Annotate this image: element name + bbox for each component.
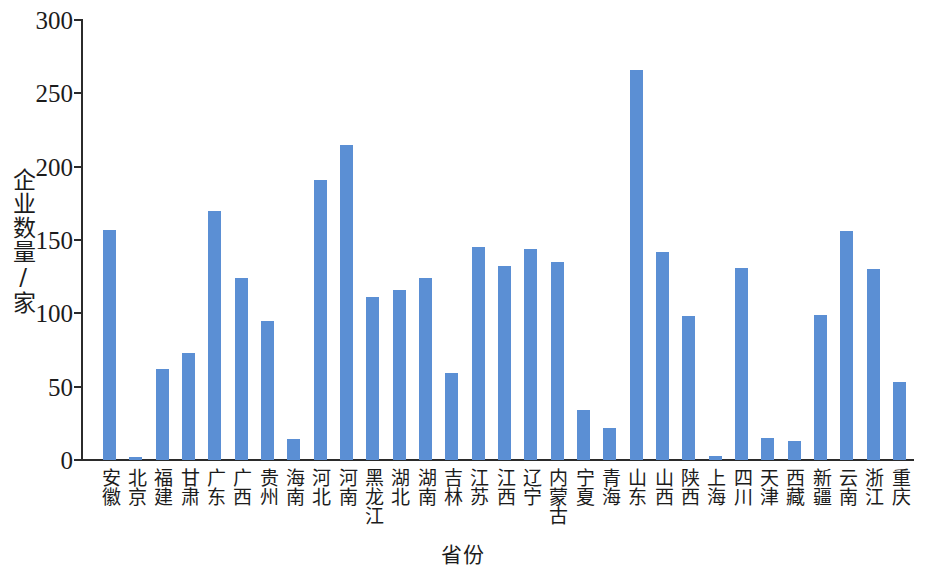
x-tick-label: 山东 (627, 468, 646, 506)
y-tick-mark (74, 386, 82, 388)
bar (103, 230, 116, 460)
x-tick-label: 四川 (732, 468, 751, 506)
x-tick-label: 宁夏 (574, 468, 593, 506)
x-tick-label: 内蒙古 (548, 468, 567, 525)
y-tick-mark (74, 239, 82, 241)
x-tick-label: 安徽 (100, 468, 119, 506)
bar (682, 316, 695, 460)
x-tick-label: 湖南 (416, 468, 435, 506)
bar-slot (254, 20, 280, 460)
bar-slot (123, 20, 149, 460)
x-tick-label: 新疆 (811, 468, 830, 506)
bar-slot (702, 20, 728, 460)
bar (524, 249, 537, 460)
bar (551, 262, 564, 460)
bar-slot (96, 20, 122, 460)
x-tick-label: 湖北 (390, 468, 409, 506)
x-tick-label: 云南 (837, 468, 856, 506)
bar-slot (307, 20, 333, 460)
bar (840, 231, 853, 460)
bar-slot (781, 20, 807, 460)
bar-slot (676, 20, 702, 460)
x-tick-label: 江苏 (469, 468, 488, 506)
x-tick-label: 北京 (126, 468, 145, 506)
bar (814, 315, 827, 460)
y-tick-mark (74, 312, 82, 314)
x-tick-label: 重庆 (890, 468, 909, 506)
bar-slot (860, 20, 886, 460)
bar-slot (149, 20, 175, 460)
y-tick-mark (74, 19, 82, 21)
x-tick-label: 黑龙江 (363, 468, 382, 525)
y-tick-label: 300 (36, 8, 74, 33)
x-tick-label: 陕西 (679, 468, 698, 506)
y-tick-label: 50 (48, 374, 73, 399)
bar (630, 70, 643, 460)
x-tick-label: 吉林 (442, 468, 461, 506)
bar-slot (465, 20, 491, 460)
bar-slot (728, 20, 754, 460)
bar-slot (491, 20, 517, 460)
x-tick-label: 甘肃 (179, 468, 198, 506)
bar-slot (570, 20, 596, 460)
bar-slot (755, 20, 781, 460)
x-tick-label: 广东 (205, 468, 224, 506)
x-tick-label: 广西 (232, 468, 251, 506)
x-tick-label: 西藏 (785, 468, 804, 506)
bar-slot (807, 20, 833, 460)
x-tick-label: 辽宁 (521, 468, 540, 506)
bar-slot (834, 20, 860, 460)
bar (208, 211, 221, 460)
bar-slot (333, 20, 359, 460)
y-tick-label: 150 (36, 228, 74, 253)
plot-area: 050100150200250300 (82, 20, 914, 460)
bar (709, 456, 722, 460)
bar (182, 353, 195, 460)
bar (603, 428, 616, 460)
bar (314, 180, 327, 460)
y-tick-label: 100 (36, 301, 74, 326)
bar-slot (228, 20, 254, 460)
y-tick-label: 0 (61, 448, 74, 473)
bar (472, 247, 485, 460)
x-tick-label: 浙江 (864, 468, 883, 506)
bar (261, 321, 274, 460)
bar-slot (281, 20, 307, 460)
bar (735, 268, 748, 460)
x-tick-label: 福建 (153, 468, 172, 506)
bar (761, 438, 774, 460)
y-tick-mark (74, 459, 82, 461)
x-tick-label: 江西 (495, 468, 514, 506)
bar (366, 297, 379, 460)
bar (419, 278, 432, 460)
x-tick-label: 青海 (600, 468, 619, 506)
y-tick-mark (74, 92, 82, 94)
bar (893, 382, 906, 460)
bar (788, 441, 801, 460)
bar-slot (386, 20, 412, 460)
bar (577, 410, 590, 460)
x-tick-label: 河北 (311, 468, 330, 506)
bar-slot (360, 20, 386, 460)
x-tick-label: 贵州 (258, 468, 277, 506)
bar (656, 252, 669, 460)
x-tick-label: 海南 (284, 468, 303, 506)
bar-slot (518, 20, 544, 460)
bar (498, 266, 511, 460)
bar-slot (202, 20, 228, 460)
bar (445, 373, 458, 460)
bar-slot (544, 20, 570, 460)
x-tick-label: 上海 (706, 468, 725, 506)
bar-slot (175, 20, 201, 460)
x-tick-label: 山西 (653, 468, 672, 506)
bar (156, 369, 169, 460)
y-tick-label: 250 (36, 81, 74, 106)
bar-slot (886, 20, 912, 460)
x-tick-label: 河南 (337, 468, 356, 506)
bar (867, 269, 880, 460)
bar-slot (597, 20, 623, 460)
bar (129, 457, 142, 460)
bar-slot (623, 20, 649, 460)
bar (235, 278, 248, 460)
